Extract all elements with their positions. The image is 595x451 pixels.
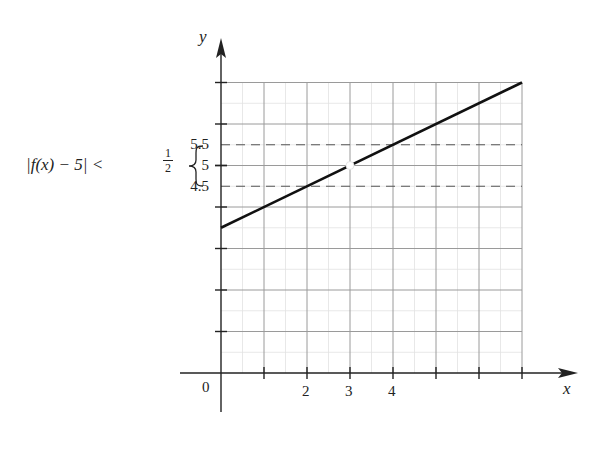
origin-label: 0 (202, 380, 210, 395)
fraction-half: 1 2 (163, 147, 173, 174)
x-tick-label-4: 4 (388, 384, 396, 399)
x-axis-label: x (563, 380, 571, 397)
axes (180, 50, 565, 412)
inequality-text: |f(x) − 5| < (26, 155, 103, 174)
axis-ticks (215, 83, 522, 380)
y-tick-label-5: 5 (185, 158, 209, 173)
chart-canvas (0, 0, 595, 451)
y-axis-label: y (199, 28, 207, 45)
minor-grid (221, 83, 522, 374)
x-tick-label-3: 3 (345, 384, 353, 399)
fraction-numerator: 1 (163, 147, 173, 161)
fraction-denominator: 2 (163, 161, 173, 174)
inequality-annotation: |f(x) − 5| < (26, 156, 103, 173)
x-tick-label-2: 2 (302, 384, 310, 399)
open-point (346, 162, 354, 170)
y-tick-label-4-5: 4.5 (185, 179, 209, 194)
y-tick-label-5-5: 5.5 (185, 137, 209, 152)
